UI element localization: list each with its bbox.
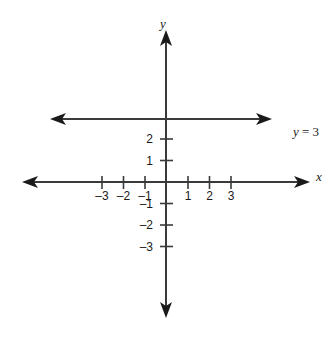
y-axis-label: y — [160, 17, 166, 30]
line-equation-rest: = 3 — [299, 124, 319, 139]
line-y-equals-3 — [50, 113, 272, 125]
x-tick-label-minus-2: –2 — [114, 190, 134, 202]
graph-figure: y x –3 –2 –1 1 2 3 2 1 –1 –2 –3 y = 3 — [0, 0, 334, 338]
x-axis-label: x — [316, 170, 322, 183]
line-equation-label: y = 3 — [280, 112, 319, 151]
y-axis — [160, 30, 173, 318]
y-tick-label-minus-3: –3 — [133, 241, 153, 253]
coordinate-plane-svg — [0, 0, 334, 338]
x-tick-label-3: 3 — [224, 190, 238, 202]
y-tick-label-minus-1: –1 — [133, 198, 153, 210]
y-tick-label-minus-2: –2 — [133, 219, 153, 231]
x-tick-label-2: 2 — [203, 190, 217, 202]
y-tick-label-1: 1 — [139, 155, 153, 167]
x-tick-label-1: 1 — [181, 190, 195, 202]
y-tick-label-2: 2 — [139, 133, 153, 145]
x-tick-label-minus-3: –3 — [92, 190, 112, 202]
